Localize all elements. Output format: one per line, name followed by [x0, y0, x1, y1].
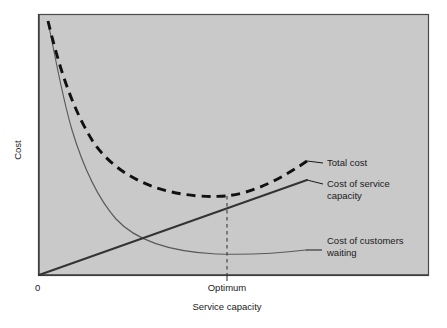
- label-cost-of-customers-waiting-line1: Cost of customers: [327, 235, 404, 246]
- label-cost-of-service-capacity-line1: Cost of service: [327, 178, 390, 189]
- label-cost-of-service-capacity-line2: capacity: [327, 190, 362, 201]
- cost-vs-service-capacity-chart: Total cost Cost of service capacity Cost…: [0, 0, 447, 328]
- y-axis-title: Cost: [12, 140, 23, 160]
- x-tick-label-zero: 0: [35, 282, 40, 293]
- label-total-cost: Total cost: [327, 157, 367, 168]
- chart-canvas: Total cost Cost of service capacity Cost…: [0, 0, 447, 328]
- x-axis-title: Service capacity: [192, 301, 261, 312]
- label-cost-of-customers-waiting-line2: waiting: [326, 247, 357, 258]
- x-tick-label-optimum: Optimum: [208, 282, 247, 293]
